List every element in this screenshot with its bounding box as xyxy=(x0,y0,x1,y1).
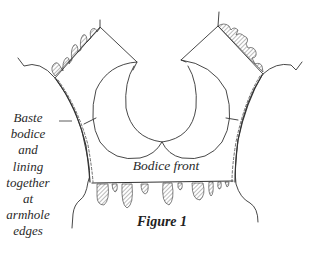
center-neckline xyxy=(126,66,197,142)
right-shoulder-fringe xyxy=(218,24,263,72)
left-shoulder-fringe xyxy=(52,28,100,76)
left-neckline-lobe xyxy=(93,62,162,159)
right-baste-line xyxy=(232,76,260,182)
annotation-line: Baste xyxy=(0,110,56,126)
right-armhole-curve xyxy=(235,62,302,222)
annotation-line: armhole xyxy=(0,207,56,223)
annotation-line: at xyxy=(0,191,56,207)
baste-annotation: Baste bodice and lining together at armh… xyxy=(0,110,56,240)
annotation-line: bodice xyxy=(0,126,56,142)
waist-fringe xyxy=(97,182,229,208)
annotation-line: edges xyxy=(0,223,56,239)
annotation-line: together xyxy=(0,175,56,191)
figure-caption: Figure 1 xyxy=(120,214,204,230)
annotation-line: and xyxy=(0,142,56,158)
annotation-line: lining xyxy=(0,159,56,175)
left-baste-line xyxy=(58,80,93,182)
left-shoulder-piece xyxy=(55,27,137,78)
bodice-front-label: Bodice front xyxy=(118,158,214,174)
